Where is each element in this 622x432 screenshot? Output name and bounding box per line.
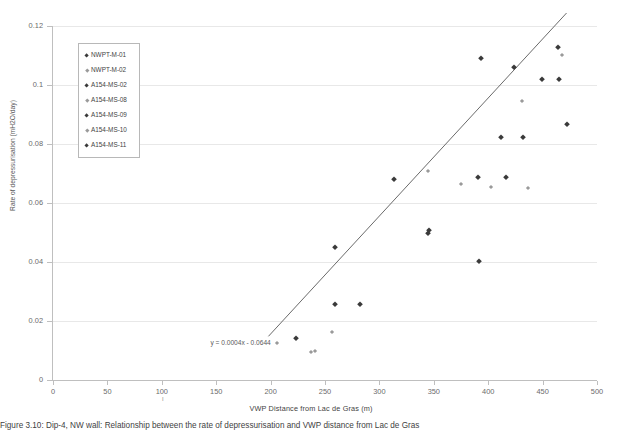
legend-marker-icon (83, 54, 91, 57)
x-tick-mark (216, 381, 217, 385)
y-tick-label: 0.08 (29, 140, 43, 147)
legend-marker-icon (83, 99, 91, 102)
legend-item-label: A154-MS-09 (91, 112, 127, 118)
legend-marker-icon (83, 129, 91, 132)
legend-marker-icon (83, 69, 91, 72)
x-tick-mark (597, 381, 598, 385)
figure-container: 00.020.040.060.080.10.12 050100150200250… (0, 0, 622, 432)
x-tick-label: 500 (591, 388, 603, 395)
x-tick-mark (488, 381, 489, 385)
x-tick-mark (162, 381, 163, 385)
x-tick-label: 100 (156, 388, 168, 395)
legend-item-label: NWPT-M-01 (91, 52, 126, 58)
x-tick-mark (271, 381, 272, 385)
legend-item: NWPT-M-02 (83, 63, 136, 78)
legend-item-label: NWPT-M-02 (91, 67, 126, 73)
x-tick-label: 450 (536, 388, 548, 395)
y-tick-mark (47, 321, 52, 322)
legend-item: A154-MS-09 (83, 108, 136, 123)
y-tick-mark (47, 26, 52, 27)
legend-item: A154-MS-10 (83, 123, 136, 138)
x-tick-label: 400 (482, 388, 494, 395)
x-tick-label: 200 (264, 388, 276, 395)
x-tick-mark (543, 381, 544, 385)
y-tick-mark (47, 144, 52, 145)
y-tick-label: 0.1 (33, 81, 43, 88)
y-tick-label: 0.04 (29, 258, 43, 265)
y-tick-label: 0.02 (29, 317, 43, 324)
axis-artifact-mark: ǀ (162, 396, 164, 402)
x-tick-label: 50 (103, 388, 111, 395)
chart-legend: NWPT-M-01NWPT-M-02A154-MS-02A154-MS-08A1… (78, 43, 140, 158)
y-axis-title: Rate of depressurisation (mH2O/day) (9, 76, 16, 236)
legend-item: A154-MS-08 (83, 93, 136, 108)
legend-item: NWPT-M-01 (83, 48, 136, 63)
y-tick-mark (47, 85, 52, 86)
x-axis-title: VWP Distance from Lac de Gras (m) (0, 404, 622, 413)
x-tick-label: 250 (319, 388, 331, 395)
y-tick-label: 0.12 (29, 22, 43, 29)
figure-caption: Figure 3.10: Dip-4, NW wall: Relationshi… (0, 421, 622, 430)
legend-item-label: A154-MS-10 (91, 127, 127, 133)
y-tick-mark (47, 262, 52, 263)
legend-marker-icon (83, 84, 91, 87)
y-tick-mark (47, 203, 52, 204)
x-tick-mark (107, 381, 108, 385)
y-tick-label: 0 (39, 376, 43, 383)
x-tick-mark (379, 381, 380, 385)
legend-item-label: A154-MS-02 (91, 82, 127, 88)
legend-item: A154-MS-02 (83, 78, 136, 93)
x-tick-label: 0 (51, 388, 55, 395)
x-tick-label: 150 (210, 388, 222, 395)
legend-marker-icon (83, 144, 91, 147)
x-tick-label: 300 (373, 388, 385, 395)
legend-item-label: A154-MS-11 (91, 142, 126, 148)
x-tick-mark (53, 381, 54, 385)
y-tick-label: 0.06 (29, 199, 43, 206)
y-tick-mark (47, 380, 52, 381)
legend-item-label: A154-MS-08 (91, 97, 127, 103)
x-tick-mark (325, 381, 326, 385)
legend-marker-icon (83, 114, 91, 117)
legend-item: A154-MS-11 (83, 138, 136, 153)
x-tick-mark (434, 381, 435, 385)
trendline-equation-label: y = 0.0004x - 0.0644 (210, 339, 270, 346)
x-tick-label: 350 (428, 388, 440, 395)
